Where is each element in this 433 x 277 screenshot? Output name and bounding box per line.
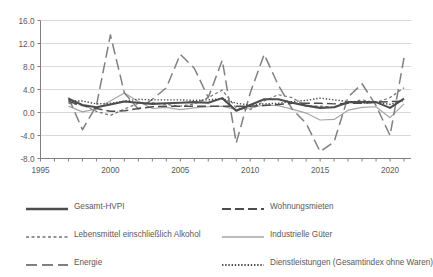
- legend-label-lebensmittel: Lebensmittel einschließlich Alkohol: [74, 231, 201, 239]
- svg-text:2010: 2010: [241, 166, 260, 175]
- legend-swatch-energie: [26, 257, 68, 269]
- svg-text:-8.0: -8.0: [20, 155, 35, 164]
- y-axis: [38, 21, 41, 159]
- x-tick-labels: 199520002005201020152020: [31, 166, 399, 175]
- legend-label-energie: Energie: [74, 259, 102, 267]
- chart-legend: Gesamt-HVPI Wohnungsmieten Lebensmittel …: [0, 192, 419, 277]
- y-tick-labels: 16.012.08.04.00.0-4.0-8.0: [19, 17, 35, 164]
- line-chart-plot: 16.012.08.04.00.0-4.0-8.0 19952000200520…: [0, 0, 419, 192]
- legend-swatch-wohnungsmieten: [222, 201, 264, 213]
- legend-item-gesamt-hvpi[interactable]: Gesamt-HVPI: [26, 194, 226, 220]
- svg-text:8.0: 8.0: [23, 63, 35, 72]
- legend-label-gesamt-hvpi: Gesamt-HVPI: [74, 203, 125, 211]
- legend-label-industrielle-gueter: Industrielle Güter: [270, 231, 332, 239]
- svg-text:12.0: 12.0: [19, 40, 35, 49]
- legend-swatch-dienstleistungen: [222, 257, 264, 269]
- svg-text:4.0: 4.0: [23, 86, 35, 95]
- legend-item-lebensmittel[interactable]: Lebensmittel einschließlich Alkohol: [26, 222, 226, 248]
- svg-text:-4.0: -4.0: [20, 132, 35, 141]
- legend-label-wohnungsmieten: Wohnungsmieten: [270, 203, 334, 211]
- legend-item-wohnungsmieten[interactable]: Wohnungsmieten: [222, 194, 419, 220]
- legend-item-industrielle-gueter[interactable]: Industrielle Güter: [222, 222, 419, 248]
- x-axis: [41, 159, 412, 162]
- svg-text:2015: 2015: [311, 166, 330, 175]
- svg-text:16.0: 16.0: [19, 17, 35, 26]
- legend-item-energie[interactable]: Energie: [26, 250, 226, 276]
- svg-text:2000: 2000: [101, 166, 120, 175]
- svg-text:0.0: 0.0: [23, 109, 35, 118]
- legend-swatch-industrielle-gueter: [222, 229, 264, 241]
- svg-text:1995: 1995: [31, 166, 50, 175]
- data-series-group: [68, 35, 404, 152]
- legend-label-dienstleistungen: Dienstleistungen (Gesamtindex ohne Waren…: [270, 259, 433, 267]
- legend-swatch-gesamt-hvpi: [26, 201, 68, 213]
- legend-item-dienstleistungen[interactable]: Dienstleistungen (Gesamtindex ohne Waren…: [222, 250, 419, 276]
- svg-text:2020: 2020: [381, 166, 400, 175]
- svg-text:2005: 2005: [171, 166, 190, 175]
- legend-swatch-lebensmittel: [26, 229, 68, 241]
